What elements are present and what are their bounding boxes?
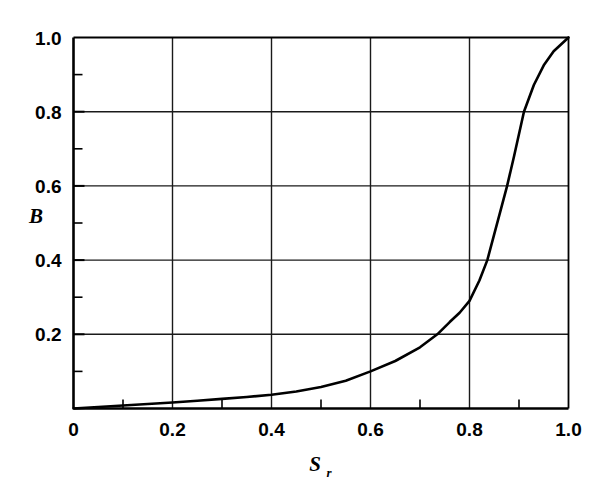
data-series-line: [74, 38, 569, 409]
x-axis-title-subscript: r: [326, 465, 332, 480]
y-tick-label: 1.0: [35, 28, 61, 49]
x-tick-label: 0.8: [456, 419, 482, 440]
grid-group: [74, 38, 569, 409]
x-tick-label: 0.4: [258, 419, 285, 440]
y-tick-label: 0.8: [35, 102, 61, 123]
y-tick-label: 0.6: [35, 176, 61, 197]
x-tick-label: 0.2: [159, 419, 185, 440]
x-axis-title: S: [309, 452, 321, 476]
y-axis-title: B: [28, 204, 43, 228]
x-tick-label: 0.6: [357, 419, 383, 440]
axis-group: [74, 38, 569, 409]
x-tick-label: 0: [68, 419, 79, 440]
label-group: 1.00.80.60.40.200.20.40.60.81.0BSr: [28, 28, 582, 480]
y-tick-label: 0.2: [35, 324, 61, 345]
x-tick-label: 1.0: [555, 419, 581, 440]
y-tick-label: 0.4: [35, 250, 62, 271]
data-group: [74, 38, 569, 409]
tick-group: [74, 75, 520, 409]
chart-figure: 1.00.80.60.40.200.20.40.60.81.0BSr: [0, 0, 607, 488]
chart-canvas: 1.00.80.60.40.200.20.40.60.81.0BSr: [0, 0, 607, 488]
